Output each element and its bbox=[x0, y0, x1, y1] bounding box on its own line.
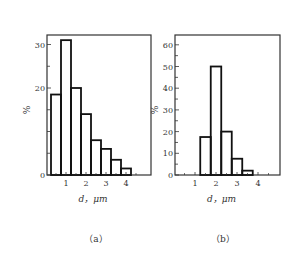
histogram-bar bbox=[111, 160, 121, 175]
histogram-panel-a: 020301234d，μm% bbox=[22, 35, 151, 204]
histogram-bar bbox=[51, 95, 61, 175]
x-tick-label: 3 bbox=[234, 179, 239, 188]
histogram-bar bbox=[71, 88, 81, 175]
x-axis-title: d，μm bbox=[207, 194, 236, 204]
y-tick-label: 10 bbox=[163, 149, 173, 158]
y-axis-title: % bbox=[150, 105, 160, 114]
histogram-bar bbox=[221, 132, 232, 175]
y-tick-label: 30 bbox=[35, 41, 45, 50]
plot-frame bbox=[47, 35, 151, 175]
caption-b: （b） bbox=[211, 232, 235, 245]
x-tick-label: 1 bbox=[192, 179, 197, 188]
y-tick-label: 60 bbox=[163, 41, 173, 50]
x-axis-title: d，μm bbox=[78, 194, 107, 204]
x-tick-label: 1 bbox=[63, 179, 68, 188]
x-tick-label: 3 bbox=[103, 179, 108, 188]
y-tick-label: 20 bbox=[35, 84, 45, 93]
x-tick-label: 2 bbox=[213, 179, 218, 188]
caption-a: （a） bbox=[84, 232, 107, 245]
y-tick-label: 50 bbox=[163, 63, 173, 72]
y-tick-label: 40 bbox=[163, 84, 173, 93]
y-tick-label: 0 bbox=[168, 171, 173, 180]
histogram-bar bbox=[211, 67, 222, 176]
histogram-figure: 020301234d，μm% 01020304050601234d，μm% bbox=[0, 0, 297, 260]
histogram-bar bbox=[61, 40, 71, 175]
histogram-bar bbox=[91, 140, 101, 175]
x-tick-label: 4 bbox=[123, 179, 128, 188]
y-tick-label: 30 bbox=[163, 106, 173, 115]
histogram-panel-b: 01020304050601234d，μm% bbox=[150, 35, 280, 204]
y-tick-label: 0 bbox=[40, 171, 45, 180]
x-tick-label: 4 bbox=[255, 179, 260, 188]
histogram-bar bbox=[81, 114, 91, 175]
plot-frame bbox=[175, 35, 280, 175]
x-tick-label: 2 bbox=[83, 179, 88, 188]
y-tick-label: 20 bbox=[163, 128, 173, 137]
y-axis-title: % bbox=[22, 105, 32, 114]
histogram-bar bbox=[200, 137, 211, 175]
histogram-bar bbox=[101, 149, 111, 175]
